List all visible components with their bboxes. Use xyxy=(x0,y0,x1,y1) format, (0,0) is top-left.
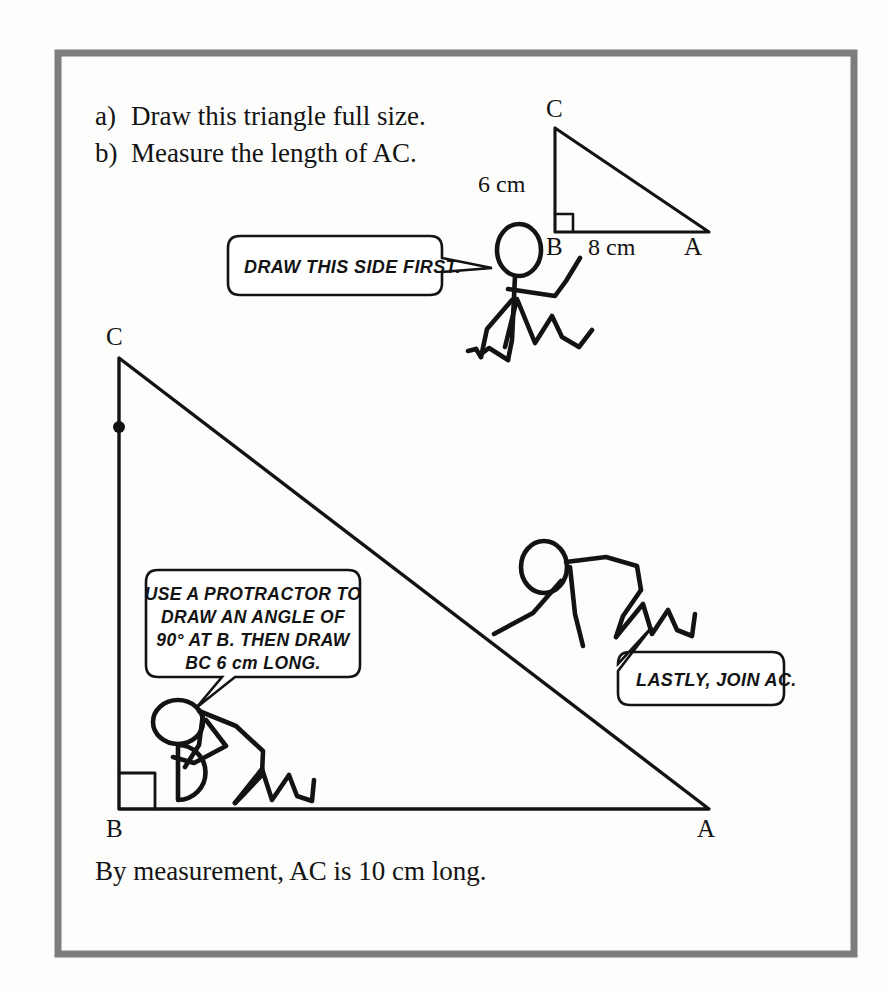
bubble1-line-1: DRAW THIS SIDE FIRST. xyxy=(244,257,461,277)
measurement-caption: By measurement, AC is 10 cm long. xyxy=(95,856,486,886)
bubble2-line-3: 90° AT B. THEN DRAW xyxy=(156,630,351,650)
task-marker-b: b) xyxy=(95,138,118,168)
construction-point-dot xyxy=(113,421,125,433)
small-side-label-8cm: 8 cm xyxy=(588,234,636,260)
diagram-canvas: a) Draw this triangle full size. b) Meas… xyxy=(0,0,888,993)
small-vertex-label-a: A xyxy=(684,233,702,260)
figure1-hip xyxy=(480,348,508,360)
stick-figure-with-protractor xyxy=(153,700,314,803)
figure3-back xyxy=(566,557,641,590)
figure1-foot-back xyxy=(468,349,476,351)
small-right-angle-marker xyxy=(555,214,573,232)
task-list: a) Draw this triangle full size. b) Meas… xyxy=(95,101,426,168)
figure1-head xyxy=(497,224,541,276)
stick-figure-joining-ac xyxy=(494,541,695,646)
bubble2-line-2: DRAW AN ANGLE OF xyxy=(161,607,346,627)
large-vertex-label-b: B xyxy=(106,815,123,842)
small-triangle: C B A 6 cm 8 cm xyxy=(478,95,709,260)
task-text-a: Draw this triangle full size. xyxy=(131,101,426,131)
large-right-angle-marker xyxy=(119,773,155,809)
speech-bubble-draw-side-first: DRAW THIS SIDE FIRST. xyxy=(228,236,492,295)
small-side-label-6cm: 6 cm xyxy=(478,171,526,197)
page-border xyxy=(58,53,854,954)
task-marker-a: a) xyxy=(95,101,116,131)
stick-figure-drawing-base xyxy=(468,224,592,360)
large-vertex-label-a: A xyxy=(697,815,715,842)
small-triangle-outline xyxy=(555,128,709,232)
worksheet-page: a) Draw this triangle full size. b) Meas… xyxy=(0,0,888,993)
figure3-front-leg xyxy=(570,567,583,646)
large-vertex-label-c: C xyxy=(106,323,123,350)
bubble3-shape xyxy=(618,627,784,705)
task-text-b: Measure the length of AC. xyxy=(131,138,417,168)
speech-bubble-use-protractor: USE A PROTRACTOR TO DRAW AN ANGLE OF 90°… xyxy=(145,570,362,708)
bubble2-line-4: BC 6 cm LONG. xyxy=(185,653,321,673)
figure1-legs xyxy=(505,299,592,347)
small-vertex-label-b: B xyxy=(546,233,563,260)
figure3-drawing-arm xyxy=(494,581,561,634)
small-vertex-label-c: C xyxy=(546,95,563,122)
speech-bubble-lastly-join-ac: LASTLY, JOIN AC. xyxy=(618,627,797,705)
figure2-legs xyxy=(235,769,314,803)
bubble3-line-1: LASTLY, JOIN AC. xyxy=(636,670,797,690)
bubble2-line-1: USE A PROTRACTOR TO xyxy=(145,584,362,604)
